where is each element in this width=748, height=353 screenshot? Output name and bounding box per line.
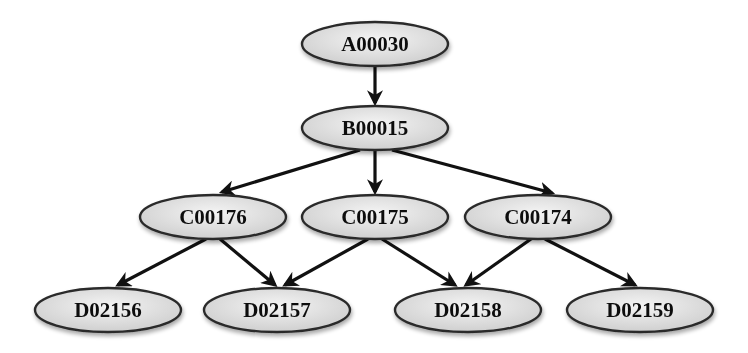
node-label: C00176 [179, 205, 247, 229]
node-label: C00175 [341, 205, 409, 229]
edge-C00176-D02157 [220, 239, 275, 285]
node-D02156[interactable]: D02156 [35, 288, 181, 332]
node-label: C00174 [504, 205, 572, 229]
edge-C00175-D02157 [285, 239, 368, 285]
node-C00174[interactable]: C00174 [465, 195, 611, 239]
edges [118, 66, 635, 285]
node-label: D02156 [74, 298, 142, 322]
node-C00176[interactable]: C00176 [140, 195, 286, 239]
node-A00030[interactable]: A00030 [302, 22, 448, 66]
edge-C00174-D02159 [545, 239, 635, 285]
edge-C00175-D02158 [382, 239, 455, 285]
edge-C00176-D02156 [118, 239, 206, 285]
node-label: B00015 [342, 116, 409, 140]
node-label: A00030 [341, 32, 409, 56]
node-B00015[interactable]: B00015 [302, 106, 448, 150]
node-C00175[interactable]: C00175 [302, 195, 448, 239]
edge-C00174-D02158 [466, 239, 531, 285]
node-label: D02159 [606, 298, 674, 322]
node-D02159[interactable]: D02159 [567, 288, 713, 332]
edge-B00015-C00176 [222, 150, 360, 192]
node-D02158[interactable]: D02158 [395, 288, 541, 332]
node-label: D02158 [434, 298, 502, 322]
node-label: D02157 [243, 298, 311, 322]
node-D02157[interactable]: D02157 [204, 288, 350, 332]
edge-B00015-C00174 [392, 150, 552, 193]
tree-diagram: A00030 B00015 C00176 C00175 C00174 D0215… [0, 0, 748, 353]
